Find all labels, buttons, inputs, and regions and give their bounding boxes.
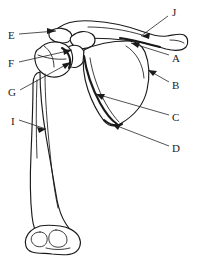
label-g: G [8, 86, 16, 98]
label-i: I [11, 115, 15, 127]
label-f: F [8, 57, 14, 69]
anatomy-svg: J E A F B G C I D [0, 0, 201, 263]
label-b: B [172, 79, 179, 91]
label-j: J [172, 6, 177, 18]
distal-humerus-outline [25, 225, 80, 255]
label-a: A [172, 52, 180, 64]
anatomy-figure: J E A F B G C I D [0, 0, 201, 263]
leader-line-b [148, 70, 169, 82]
humerus-group [25, 42, 80, 255]
label-c: C [172, 111, 179, 123]
leader-line-d [112, 124, 169, 146]
label-e: E [8, 29, 15, 41]
label-d: D [172, 142, 180, 154]
scapula-body-outline [83, 41, 149, 126]
